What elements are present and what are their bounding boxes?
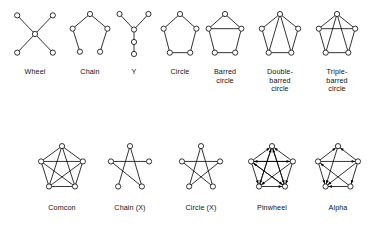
graph-edge: [191, 31, 196, 49]
graph-label-comcon: Comcon: [35, 204, 89, 213]
graph-label-triple-barred-circle: Triple-barredcircle: [313, 68, 361, 94]
graph-edge: [119, 149, 129, 184]
graph-node: [334, 11, 339, 16]
edge-arrowhead: [279, 185, 282, 188]
graph-y: [113, 8, 155, 60]
graph-node: [87, 11, 92, 16]
edge-arrowhead: [322, 180, 325, 184]
graph-node: [188, 50, 193, 55]
graph-node: [98, 49, 103, 54]
graph-node: [50, 13, 55, 18]
graph-node: [32, 31, 37, 36]
graph-edge: [164, 31, 169, 49]
graph-node: [233, 50, 238, 55]
graph-node: [316, 26, 321, 31]
graph-node: [70, 26, 75, 31]
edge-arrowhead: [286, 180, 289, 184]
graph-edge: [182, 16, 194, 27]
edge-arrowhead: [351, 180, 354, 184]
graph-node: [167, 50, 172, 55]
graph-canvas-barred-circle: [203, 8, 247, 60]
graph-edge: [64, 148, 80, 160]
graph-node: [296, 26, 301, 31]
graph-label-pinwheel: Pinwheel: [245, 204, 299, 213]
graph-label-y: Y: [113, 68, 155, 77]
graph-label-line: Circle: [158, 68, 202, 77]
graph-triple-barred-circle: [313, 8, 361, 60]
graph-canvas-chain-x: [105, 140, 155, 194]
edge-arrowhead: [256, 180, 259, 184]
graph-node: [206, 26, 211, 31]
graph-node: [161, 26, 166, 31]
graph-edge: [19, 36, 33, 50]
diagram-canvas: WheelChainYCircleBarredcircleDouble-barr…: [0, 0, 379, 230]
edge-arrowhead: [287, 160, 290, 163]
graph-canvas-alpha: [312, 140, 364, 194]
graph-node: [105, 26, 110, 31]
graph-node: [335, 144, 340, 149]
graph-node: [323, 184, 328, 189]
graph-node: [249, 159, 254, 164]
graph-pinwheel: [245, 140, 299, 194]
graph-canvas-pinwheel: [245, 140, 299, 194]
graph-label-double-barred-circle: Double-barredcircle: [256, 68, 304, 94]
graph-edge: [73, 31, 79, 49]
graph-label-line: Comcon: [35, 204, 89, 213]
graph-alpha: [312, 140, 364, 194]
graph-node: [80, 159, 85, 164]
graph-canvas-double-barred-circle: [256, 8, 304, 60]
graph-edge: [349, 31, 354, 49]
graph-chain-x: [105, 140, 155, 194]
graph-node: [15, 13, 20, 18]
graph-edge: [209, 31, 214, 49]
graph-node: [139, 184, 144, 189]
graph-edge: [236, 31, 241, 49]
graph-double-barred-circle: [256, 8, 304, 60]
edge-arrowhead: [282, 180, 285, 184]
graph-edge: [92, 16, 105, 27]
graph-node: [117, 11, 122, 16]
graph-label-line: circle: [203, 77, 247, 86]
graph-node: [72, 184, 77, 189]
graph-edge: [263, 31, 268, 49]
graph-node: [269, 144, 274, 149]
graph-node: [59, 144, 64, 149]
graph-edge: [19, 17, 33, 31]
graph-circle: [158, 8, 202, 60]
graph-node: [282, 184, 287, 189]
graph-node: [212, 50, 217, 55]
graph-edge: [227, 16, 239, 27]
graph-node: [198, 144, 203, 149]
graph-label-circle-x: Circle (X): [176, 204, 226, 213]
graph-edge: [292, 31, 297, 49]
graph-node: [131, 39, 136, 44]
graph-node: [348, 184, 353, 189]
graph-canvas-circle: [158, 8, 202, 60]
graph-node: [46, 184, 51, 189]
graph-node: [277, 11, 282, 16]
graph-edge: [211, 16, 223, 27]
graph-canvas-triple-barred-circle: [313, 8, 361, 60]
graph-node: [290, 159, 295, 164]
graph-label-line: circle: [256, 85, 304, 94]
graph-node: [146, 11, 151, 16]
graph-edge: [43, 148, 59, 160]
graph-node: [353, 26, 358, 31]
graph-label-line: circle: [313, 85, 361, 94]
graph-wheel: [10, 8, 60, 60]
graph-comcon: [35, 140, 89, 194]
graph-canvas-y: [113, 8, 155, 60]
graph-node: [346, 50, 351, 55]
graph-node: [179, 159, 184, 164]
graph-edge: [75, 16, 88, 27]
graph-circle-x: [176, 140, 226, 194]
graph-edge: [42, 164, 48, 184]
graph-label-wheel: Wheel: [10, 68, 60, 77]
graph-node: [177, 11, 182, 16]
graph-label-line: Chain (X): [105, 204, 155, 213]
graph-edge: [101, 31, 107, 49]
graph-node: [39, 159, 44, 164]
graph-node: [108, 159, 113, 164]
graph-node: [187, 184, 192, 189]
graph-edge: [136, 16, 146, 27]
